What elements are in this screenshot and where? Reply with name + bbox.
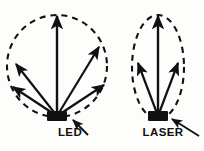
led-label: LED: [58, 126, 82, 138]
laser-label: LASER: [143, 126, 184, 138]
emission-pattern-figure: LED LASER: [0, 0, 204, 151]
laser-emitter-body: [148, 111, 168, 121]
figure-canvas: LED LASER: [0, 0, 204, 151]
led-emitter-body: [47, 111, 67, 121]
